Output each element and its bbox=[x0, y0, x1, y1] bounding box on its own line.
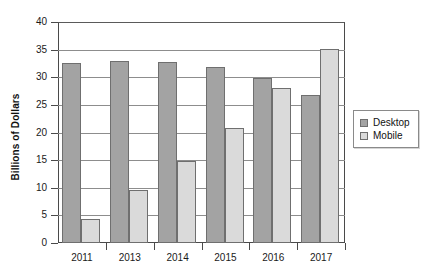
x-tick-mark bbox=[297, 243, 298, 250]
y-tick-label: 15 bbox=[20, 154, 47, 165]
bar-mobile-2014[interactable] bbox=[177, 161, 196, 243]
x-tick-mark bbox=[202, 243, 203, 250]
legend-item-mobile[interactable]: Mobile bbox=[360, 129, 410, 142]
bar-mobile-2016[interactable] bbox=[272, 88, 291, 243]
y-tick-label: 25 bbox=[20, 99, 47, 110]
x-tick-label-2017: 2017 bbox=[294, 252, 348, 263]
legend-swatch-mobile bbox=[360, 132, 368, 140]
y-tick-mark bbox=[51, 188, 58, 189]
y-tick-label: 10 bbox=[20, 182, 47, 193]
bar-desktop-2014[interactable] bbox=[158, 62, 177, 243]
y-tick-label: 5 bbox=[20, 209, 47, 220]
x-tick-mark bbox=[106, 243, 107, 250]
bar-mobile-2011[interactable] bbox=[81, 219, 100, 243]
y-tick-mark bbox=[51, 215, 58, 216]
bar-desktop-2013[interactable] bbox=[110, 61, 129, 243]
bar-mobile-2013[interactable] bbox=[129, 190, 148, 243]
y-tick-label: 20 bbox=[20, 127, 47, 138]
x-tick-label-2014: 2014 bbox=[151, 252, 205, 263]
y-tick-mark bbox=[51, 22, 58, 23]
x-tick-mark bbox=[249, 243, 250, 250]
bars-layer bbox=[58, 22, 345, 243]
x-tick-label-2016: 2016 bbox=[246, 252, 300, 263]
bar-desktop-2016[interactable] bbox=[253, 78, 272, 243]
y-tick-mark bbox=[51, 50, 58, 51]
y-tick-label: 30 bbox=[20, 71, 47, 82]
legend-item-desktop[interactable]: Desktop bbox=[360, 116, 410, 129]
y-tick-mark bbox=[51, 105, 58, 106]
x-tick-label-2013: 2013 bbox=[103, 252, 157, 263]
legend-label-desktop: Desktop bbox=[373, 117, 410, 128]
bar-group bbox=[297, 22, 345, 243]
legend-swatch-desktop bbox=[360, 119, 368, 127]
x-tick-mark bbox=[154, 243, 155, 250]
y-tick-mark bbox=[51, 77, 58, 78]
legend-label-mobile: Mobile bbox=[373, 130, 402, 141]
bar-desktop-2011[interactable] bbox=[62, 63, 81, 243]
bar-mobile-2017[interactable] bbox=[320, 49, 339, 243]
x-tick-mark bbox=[345, 243, 346, 250]
bar-group bbox=[58, 22, 106, 243]
bar-group bbox=[249, 22, 297, 243]
bar-chart: Billions of Dollars 4035302520151050 201… bbox=[0, 0, 438, 274]
y-tick-label: 0 bbox=[20, 237, 47, 248]
y-tick-label: 40 bbox=[20, 16, 47, 27]
bar-mobile-2015[interactable] bbox=[225, 128, 244, 243]
y-tick-label: 35 bbox=[20, 44, 47, 55]
bar-group bbox=[202, 22, 250, 243]
legend: Desktop Mobile bbox=[353, 110, 419, 148]
y-tick-mark bbox=[51, 243, 58, 244]
bar-desktop-2017[interactable] bbox=[301, 95, 320, 243]
bar-group bbox=[106, 22, 154, 243]
bar-desktop-2015[interactable] bbox=[206, 67, 225, 243]
y-tick-mark bbox=[51, 160, 58, 161]
y-tick-mark bbox=[51, 133, 58, 134]
x-tick-label-2015: 2015 bbox=[198, 252, 252, 263]
x-tick-label-2011: 2011 bbox=[55, 252, 109, 263]
bar-group bbox=[154, 22, 202, 243]
